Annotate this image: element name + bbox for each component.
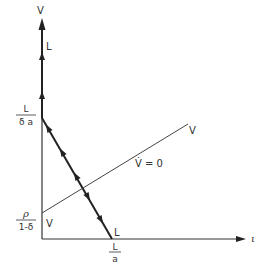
- x-intercept-fraction: L a: [109, 242, 121, 264]
- vdot-line-start-label: V: [46, 218, 53, 229]
- svg-text:1-δ: 1-δ: [19, 222, 34, 232]
- y-intercept-upper-fraction: L δ a: [16, 104, 36, 127]
- arrow-up-icon: [39, 52, 45, 60]
- svg-text:L: L: [112, 242, 117, 252]
- svg-text:L: L: [23, 104, 28, 114]
- arrow-up-icon: [39, 18, 46, 30]
- x-axis-label: ι: [251, 233, 255, 244]
- diagonal-bottom-label: L: [114, 227, 120, 238]
- y-intercept-lower-fraction: ρ 1-δ: [16, 208, 36, 232]
- svg-text:ρ: ρ: [22, 208, 29, 219]
- svg-text:δ a: δ a: [19, 117, 33, 127]
- arrow-down-right-icon: [96, 215, 105, 225]
- arrow-up-icon: [39, 91, 45, 99]
- vdot-line-equation: V̇ = 0: [135, 157, 163, 169]
- vdot-line-end-label: V: [189, 125, 196, 136]
- top-trajectory-label: L: [46, 41, 52, 52]
- phase-diagram: V L L δ a ρ 1-δ V V V̇ = 0 L L a ι: [0, 0, 267, 268]
- x-axis-arrow-icon: [236, 236, 246, 242]
- vdot-zero-line: [42, 124, 188, 213]
- svg-text:a: a: [112, 254, 118, 264]
- y-axis-label: V: [37, 5, 44, 16]
